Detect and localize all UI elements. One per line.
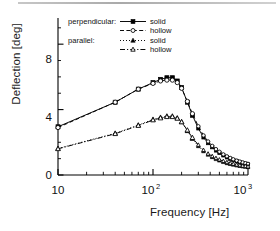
- legend-entry-parallel-solid-label: solid: [150, 36, 166, 45]
- marker-open-circle: [232, 158, 235, 161]
- ytick-label-0: 0: [46, 169, 52, 181]
- legend-entry-perpendicular-solid-label: solid: [150, 17, 166, 26]
- marker-open-circle: [202, 134, 205, 137]
- marker-open-circle: [175, 80, 179, 84]
- ytick-label-4: 4: [46, 111, 53, 123]
- marker-open-triangle: [158, 116, 163, 120]
- legend-entry-parallel-hollow-label: hollow: [150, 45, 172, 54]
- marker-filled-square: [131, 20, 135, 24]
- marker-open-triangle: [131, 47, 135, 51]
- marker-open-circle: [197, 125, 200, 128]
- xtick-label-1000: 10: [234, 184, 247, 196]
- marker-open-circle: [131, 29, 135, 33]
- marker-open-circle: [185, 99, 189, 103]
- marker-open-triangle: [214, 156, 218, 160]
- marker-open-circle: [56, 125, 60, 129]
- ytick-label-8: 8: [46, 53, 52, 65]
- deflection-vs-frequency-chart: perpendicular: solid hollow parallel: so…: [0, 0, 280, 231]
- x-axis-title: Frequency [Hz]: [150, 206, 229, 218]
- xtick-label-1000-exponent: 3: [248, 182, 252, 191]
- y-axis-ticks: [58, 28, 64, 175]
- marker-open-circle: [165, 78, 169, 82]
- legend-sample-lines: [120, 20, 146, 52]
- marker-open-triangle: [206, 152, 210, 156]
- marker-open-triangle: [218, 158, 222, 162]
- marker-open-triangle: [170, 114, 175, 118]
- x-axis-ticks: [58, 169, 248, 175]
- chart-legend: perpendicular: solid hollow parallel: so…: [68, 17, 172, 54]
- marker-open-circle: [190, 112, 194, 116]
- data-series-layer: [56, 76, 250, 169]
- marker-open-circle: [214, 147, 217, 150]
- marker-open-circle: [222, 153, 225, 156]
- xtick-label-100: 10: [142, 184, 155, 196]
- marker-open-triangle: [175, 116, 180, 120]
- xtick-label-10: 10: [52, 184, 65, 196]
- marker-open-triangle: [151, 118, 156, 122]
- xtick-label-100-exponent: 2: [156, 182, 160, 191]
- legend-entry-perpendicular-hollow-label: hollow: [150, 26, 172, 35]
- y-axis-title: Deflection [deg]: [10, 4, 22, 124]
- marker-open-circle: [151, 81, 155, 85]
- marker-filled-triangle: [131, 38, 135, 42]
- figure-container: perpendicular: solid hollow parallel: so…: [0, 0, 280, 231]
- marker-open-circle: [210, 144, 213, 147]
- marker-open-triangle: [113, 131, 118, 135]
- marker-open-circle: [206, 140, 209, 143]
- marker-open-circle: [158, 79, 162, 83]
- legend-group-parallel-label: parallel:: [68, 36, 95, 45]
- marker-open-triangle: [136, 123, 141, 127]
- marker-open-triangle: [56, 146, 61, 150]
- marker-open-circle: [218, 150, 221, 153]
- marker-open-circle: [179, 86, 183, 90]
- marker-open-triangle: [231, 162, 235, 166]
- marker-open-circle: [170, 78, 174, 82]
- marker-open-triangle: [165, 114, 170, 118]
- marker-open-triangle: [210, 154, 214, 158]
- marker-open-circle: [113, 100, 117, 104]
- marker-open-triangle: [221, 159, 225, 163]
- marker-open-circle: [136, 87, 140, 91]
- legend-group-perpendicular-label: perpendicular:: [68, 17, 116, 26]
